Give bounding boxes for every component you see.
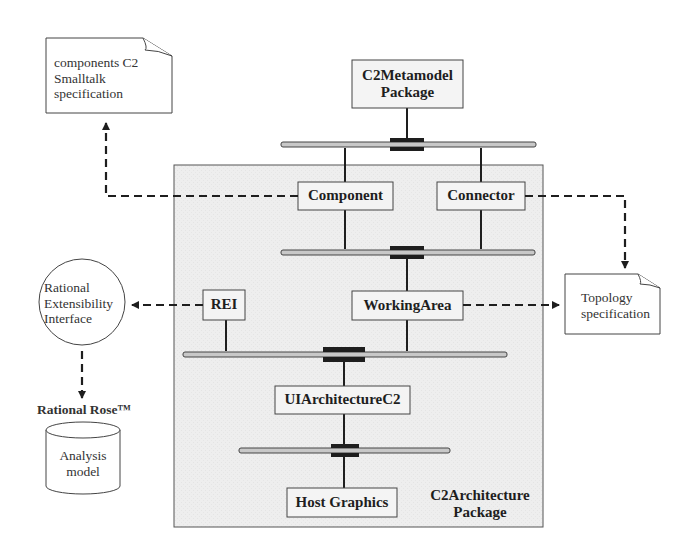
rei-interface-line-3: Interface (44, 311, 124, 327)
smalltalk-spec-line-2: Smalltalk (54, 71, 169, 87)
rei-interface-line-2: Extensibility (44, 296, 124, 312)
topology-spec-line-2: specification (581, 306, 661, 322)
uiarchitecturec2-label: UIArchitectureC2 (275, 386, 410, 414)
topology-spec-note-text: Topology specification (581, 290, 661, 321)
topology-spec-line-1: Topology (581, 290, 661, 306)
rei-interface-label: Rational Extensibility Interface (44, 280, 124, 327)
rei-interface-line-1: Rational (44, 280, 124, 296)
analysis-model-label: Analysis model (46, 448, 120, 479)
rei-label: REI (203, 290, 245, 320)
smalltalk-spec-line-1: components C2 (54, 55, 169, 71)
connector-label: Connector (437, 182, 525, 210)
smalltalk-spec-note-text: components C2 Smalltalk specification (54, 55, 169, 102)
c2architecture-label-line-1: C2Architecture (430, 487, 529, 504)
host-graphics-label: Host Graphics (287, 488, 397, 517)
workingarea-label: WorkingArea (352, 291, 463, 320)
c2architecture-package-frame (174, 165, 543, 527)
rational-rose-label: Rational Rose™ (20, 402, 148, 418)
component-label: Component (298, 182, 393, 210)
c2architecture-package-label: C2Architecture Package (420, 484, 540, 524)
c2metamodel-label-line-2: Package (381, 84, 434, 101)
connector-bus-1 (281, 138, 536, 151)
smalltalk-spec-line-3: specification (54, 86, 169, 102)
c2metamodel-package-label: C2Metamodel Package (352, 60, 463, 108)
analysis-model-line-2: model (46, 464, 120, 480)
analysis-model-line-1: Analysis (46, 448, 120, 464)
c2metamodel-label-line-1: C2Metamodel (362, 67, 453, 84)
c2architecture-label-line-2: Package (453, 504, 506, 521)
